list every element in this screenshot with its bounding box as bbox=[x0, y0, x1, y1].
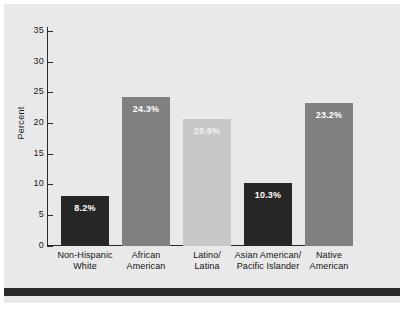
category-line-2: American bbox=[110, 261, 182, 272]
category-line-1: African bbox=[110, 250, 182, 261]
bar-value-label: 23.2% bbox=[305, 110, 353, 120]
bar-latino-latina: 20.6% bbox=[183, 119, 231, 246]
bar-value-label: 10.3% bbox=[244, 190, 292, 200]
bar-asian-american-pacific-islander: 10.3% bbox=[244, 183, 292, 246]
y-tick-label-5: 5 bbox=[4, 210, 44, 219]
y-tick-label-25: 25 bbox=[4, 87, 44, 96]
bottom-divider-rule bbox=[4, 288, 400, 296]
bar-value-label: 8.2% bbox=[61, 203, 109, 213]
category-line-2: American bbox=[295, 261, 363, 272]
y-tick-25 bbox=[47, 92, 53, 93]
category-line-1: Native bbox=[295, 250, 363, 261]
y-tick-10 bbox=[47, 184, 53, 185]
bar-native-american: 23.2% bbox=[305, 103, 353, 246]
bar-non-hispanic-white: 8.2% bbox=[61, 196, 109, 246]
y-tick-15 bbox=[47, 154, 53, 155]
y-tick-20 bbox=[47, 123, 53, 124]
chart-page: Percent 35 30 25 20 15 10 5 0 8.2% 24.3%… bbox=[0, 0, 411, 315]
y-tick-label-10: 10 bbox=[4, 179, 44, 188]
category-label-native-american: Native American bbox=[295, 250, 363, 272]
category-label-african-american: African American bbox=[110, 250, 182, 272]
bar-value-label: 20.6% bbox=[183, 126, 231, 136]
y-tick-35 bbox=[47, 31, 53, 32]
y-tick-label-35: 35 bbox=[4, 26, 44, 35]
y-tick-label-0: 0 bbox=[4, 241, 44, 250]
y-tick-label-15: 15 bbox=[4, 149, 44, 158]
y-tick-5 bbox=[47, 215, 53, 216]
bar-african-american: 24.3% bbox=[122, 97, 170, 246]
bar-value-label: 24.3% bbox=[122, 104, 170, 114]
y-tick-30 bbox=[47, 62, 53, 63]
y-tick-label-30: 30 bbox=[4, 57, 44, 66]
y-tick-label-20: 20 bbox=[4, 118, 44, 127]
y-axis-spine bbox=[47, 27, 48, 246]
plot-area: Percent 35 30 25 20 15 10 5 0 8.2% 24.3%… bbox=[0, 0, 396, 299]
y-tick-0 bbox=[47, 246, 53, 247]
